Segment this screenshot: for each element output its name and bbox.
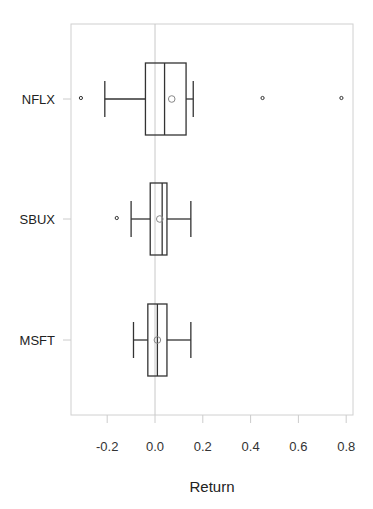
- x-tick-label: -0.2: [96, 439, 118, 454]
- box-sbux: [115, 183, 191, 255]
- box-nflx: [79, 63, 343, 135]
- iqr-box: [145, 63, 186, 135]
- outlier-point: [115, 216, 118, 219]
- boxes: [79, 63, 343, 376]
- x-tick-label: 0.0: [146, 439, 164, 454]
- outlier-point: [261, 96, 264, 99]
- x-tick-label: 0.4: [242, 439, 260, 454]
- plot-frame: [71, 24, 353, 415]
- boxplot-chart: -0.20.00.20.40.60.8 NFLXSBUXMSFT Return: [0, 0, 373, 509]
- mean-marker: [168, 96, 175, 103]
- outlier-point: [79, 96, 82, 99]
- y-tick-label-sbux: SBUX: [20, 212, 56, 227]
- x-axis-label: Return: [189, 478, 234, 495]
- x-tick-label: 0.8: [337, 439, 355, 454]
- y-axis: NFLXSBUXMSFT: [20, 92, 71, 348]
- outlier-point: [340, 96, 343, 99]
- iqr-box: [150, 183, 167, 255]
- x-tick-label: 0.6: [289, 439, 307, 454]
- x-tick-label: 0.2: [194, 439, 212, 454]
- y-tick-label-msft: MSFT: [20, 333, 55, 348]
- box-msft: [133, 304, 190, 376]
- x-axis: -0.20.00.20.40.60.8: [96, 415, 355, 454]
- y-tick-label-nflx: NFLX: [22, 92, 56, 107]
